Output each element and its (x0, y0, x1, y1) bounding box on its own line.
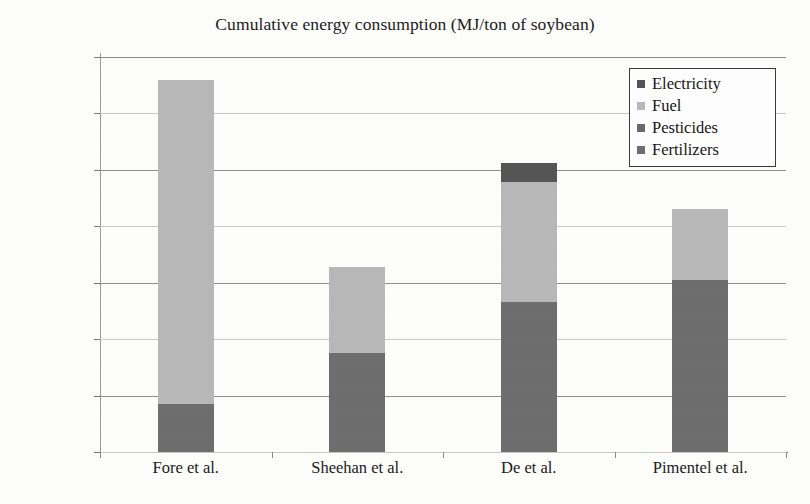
bar-segment-fertilizers[interactable] (672, 280, 728, 452)
x-tick-mark (100, 452, 101, 458)
x-tick-label: Fore et al. (153, 458, 219, 478)
legend-swatch-icon (637, 124, 645, 132)
y-tick-mark (94, 339, 100, 340)
legend-item[interactable]: Fuel (637, 95, 769, 117)
bar-stack[interactable] (501, 57, 557, 452)
legend-item-label: Fertilizers (652, 142, 719, 159)
chart-legend: ElectricityFuelPesticidesFertilizers (629, 68, 776, 167)
x-tick-mark (443, 452, 444, 458)
legend-item[interactable]: Pesticides (637, 117, 769, 139)
chart-figure: Cumulative energy consumption (MJ/ton of… (0, 0, 810, 504)
legend-swatch-icon (637, 146, 645, 154)
y-tick-mark (94, 170, 100, 171)
bar-stack[interactable] (329, 57, 385, 452)
bar-segment-electricity[interactable] (501, 163, 557, 183)
x-tick-mark (272, 452, 273, 458)
bar-segment-fuel[interactable] (329, 267, 385, 353)
y-tick-mark (94, 283, 100, 284)
x-tick-mark (786, 452, 787, 458)
legend-item[interactable]: Electricity (637, 73, 769, 95)
bar-segment-fuel[interactable] (158, 80, 214, 405)
x-tick-label: De et al. (501, 458, 556, 478)
y-tick-mark (94, 226, 100, 227)
y-tick-mark (94, 57, 100, 58)
y-tick-mark (94, 396, 100, 397)
y-tick-mark (94, 113, 100, 114)
bar-segment-fuel[interactable] (501, 182, 557, 302)
bar-segment-fertilizers[interactable] (501, 302, 557, 452)
chart-title: Cumulative energy consumption (MJ/ton of… (0, 14, 810, 35)
bar-segment-fertilizers[interactable] (158, 404, 214, 452)
bar-stack[interactable] (158, 57, 214, 452)
legend-swatch-icon (637, 80, 645, 88)
legend-item-label: Electricity (652, 76, 721, 93)
bar-segment-fuel[interactable] (672, 209, 728, 280)
x-tick-label: Sheehan et al. (311, 458, 403, 478)
x-tick-mark (615, 452, 616, 458)
legend-swatch-icon (637, 102, 645, 110)
bar-segment-fertilizers[interactable] (329, 353, 385, 452)
legend-item[interactable]: Fertilizers (637, 139, 769, 161)
x-tick-label: Pimentel et al. (653, 458, 748, 478)
legend-item-label: Fuel (652, 98, 681, 115)
legend-item-label: Pesticides (652, 120, 718, 137)
